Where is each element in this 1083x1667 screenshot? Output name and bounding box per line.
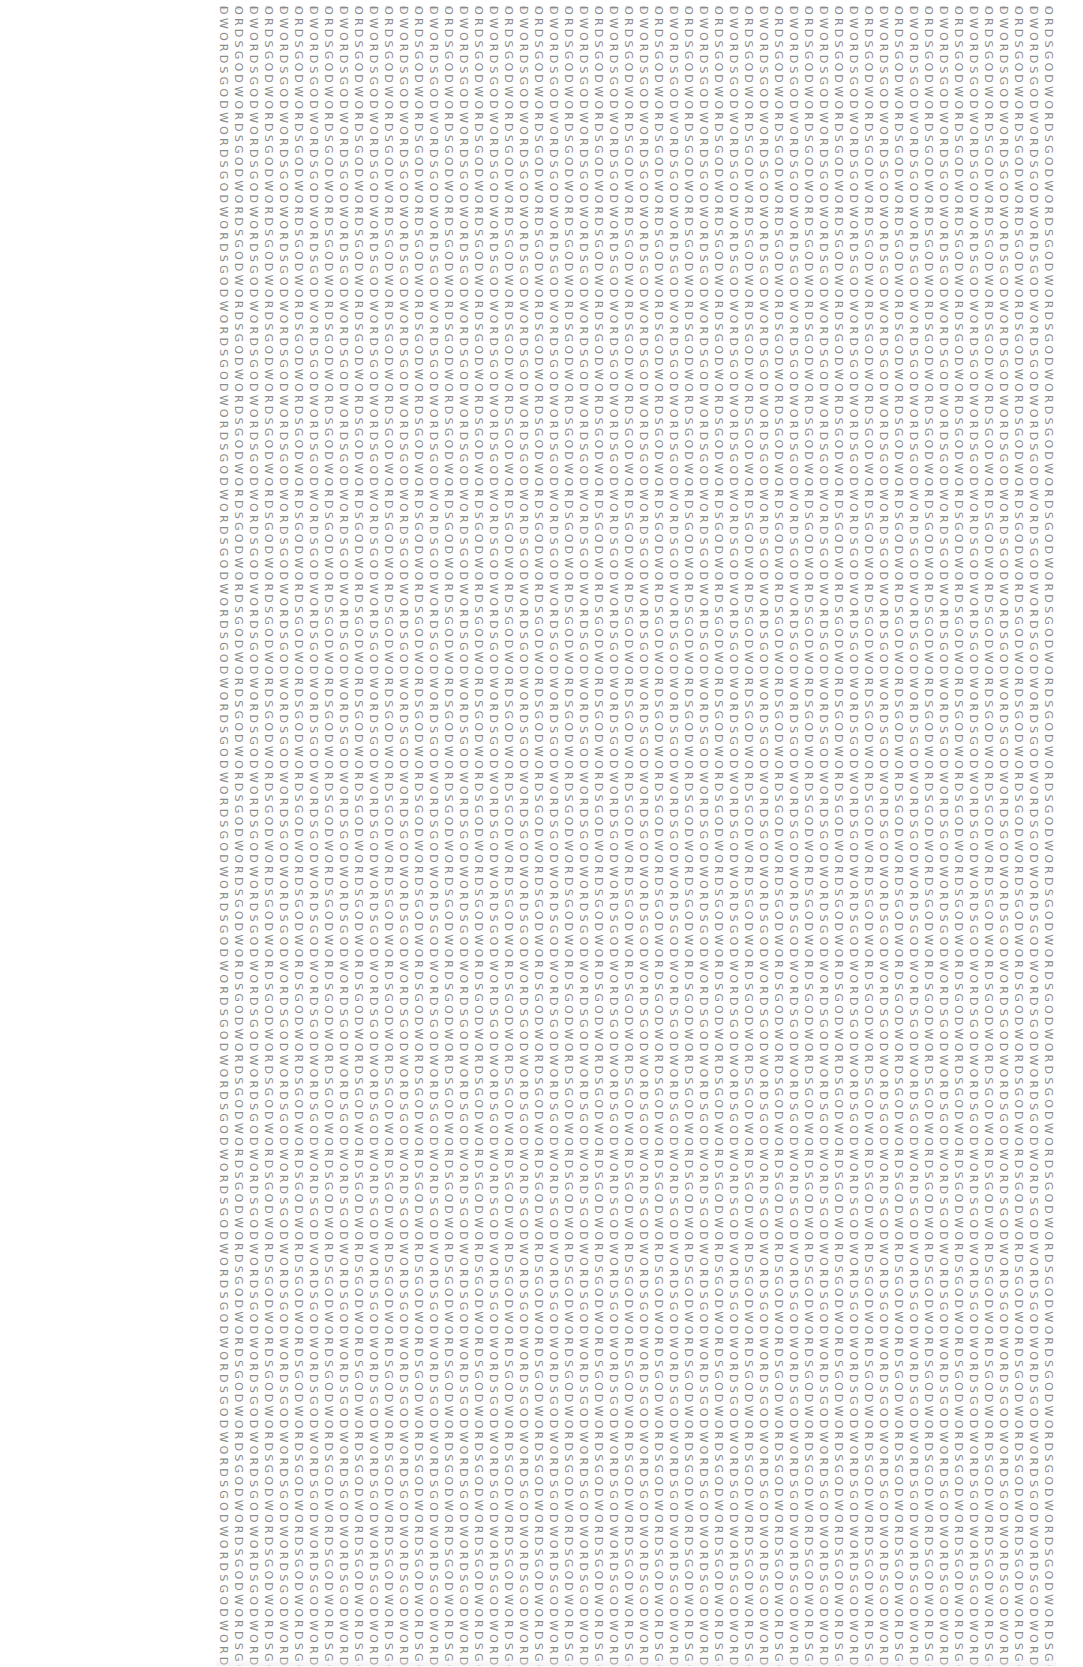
column-bottom-fade <box>846 1658 861 1666</box>
text-column: DWORDSGODWORDSGODWORDSGODWORDSGODWORDSGO… <box>936 6 951 1666</box>
column-text: DWORDSGODWORDSGODWORDSGODWORDSGODWORDSGO… <box>336 6 351 1666</box>
text-column: ORDSGODWORDSGODWORDSGODWORDSGODWORDSGODW… <box>1041 6 1056 1666</box>
column-bottom-fade <box>711 1658 726 1666</box>
text-column: ORDSGODWORDSGODWORDSGODWORDSGODWORDSGODW… <box>711 6 726 1666</box>
column-bottom-fade <box>756 1658 771 1666</box>
column-text: DWORDSGODWORDSGODWORDSGODWORDSGODWORDSGO… <box>216 6 231 1666</box>
column-text: DWORDSGODWORDSGODWORDSGODWORDSGODWORDSGO… <box>756 6 771 1666</box>
column-text: DWORDSGODWORDSGODWORDSGODWORDSGODWORDSGO… <box>426 6 441 1666</box>
column-text: ORDSGODWORDSGODWORDSGODWORDSGODWORDSGODW… <box>351 6 366 1666</box>
column-bottom-fade <box>966 1658 981 1666</box>
column-text: DWORDSGODWORDSGODWORDSGODWORDSGODWORDSGO… <box>606 6 621 1666</box>
column-text: DWORDSGODWORDSGODWORDSGODWORDSGODWORDSGO… <box>876 6 891 1666</box>
text-columns: DWORDSGODWORDSGODWORDSGODWORDSGODWORDSGO… <box>216 0 1061 1667</box>
column-bottom-fade <box>921 1658 936 1666</box>
column-text: ORDSGODWORDSGODWORDSGODWORDSGODWORDSGODW… <box>861 6 876 1666</box>
column-bottom-fade <box>231 1658 246 1666</box>
column-bottom-fade <box>351 1658 366 1666</box>
column-text: DWORDSGODWORDSGODWORDSGODWORDSGODWORDSGO… <box>456 6 471 1666</box>
column-bottom-fade <box>681 1658 696 1666</box>
column-text: DWORDSGODWORDSGODWORDSGODWORDSGODWORDSGO… <box>816 6 831 1666</box>
column-bottom-fade <box>741 1658 756 1666</box>
column-bottom-fade <box>546 1658 561 1666</box>
column-text: ORDSGODWORDSGODWORDSGODWORDSGODWORDSGODW… <box>501 6 516 1666</box>
column-bottom-fade <box>891 1658 906 1666</box>
column-text: ORDSGODWORDSGODWORDSGODWORDSGODWORDSGODW… <box>981 6 996 1666</box>
text-column: ORDSGODWORDSGODWORDSGODWORDSGODWORDSGODW… <box>501 6 516 1666</box>
column-bottom-fade <box>591 1658 606 1666</box>
text-column: ORDSGODWORDSGODWORDSGODWORDSGODWORDSGODW… <box>231 6 246 1666</box>
column-text: ORDSGODWORDSGODWORDSGODWORDSGODWORDSGODW… <box>561 6 576 1666</box>
text-column: DWORDSGODWORDSGODWORDSGODWORDSGODWORDSGO… <box>786 6 801 1666</box>
column-bottom-fade <box>816 1658 831 1666</box>
column-bottom-fade <box>426 1658 441 1666</box>
text-column: DWORDSGODWORDSGODWORDSGODWORDSGODWORDSGO… <box>426 6 441 1666</box>
column-bottom-fade <box>321 1658 336 1666</box>
text-column: DWORDSGODWORDSGODWORDSGODWORDSGODWORDSGO… <box>636 6 651 1666</box>
text-column: ORDSGODWORDSGODWORDSGODWORDSGODWORDSGODW… <box>891 6 906 1666</box>
column-text: DWORDSGODWORDSGODWORDSGODWORDSGODWORDSGO… <box>246 6 261 1666</box>
column-bottom-fade <box>621 1658 636 1666</box>
text-column: DWORDSGODWORDSGODWORDSGODWORDSGODWORDSGO… <box>666 6 681 1666</box>
column-text: ORDSGODWORDSGODWORDSGODWORDSGODWORDSGODW… <box>441 6 456 1666</box>
artwork-canvas: DWORDSGODWORDSGODWORDSGODWORDSGODWORDSGO… <box>0 0 1083 1667</box>
column-bottom-fade <box>1011 1658 1026 1666</box>
text-column: DWORDSGODWORDSGODWORDSGODWORDSGODWORDSGO… <box>486 6 501 1666</box>
text-column: DWORDSGODWORDSGODWORDSGODWORDSGODWORDSGO… <box>906 6 921 1666</box>
column-text: DWORDSGODWORDSGODWORDSGODWORDSGODWORDSGO… <box>696 6 711 1666</box>
column-text: ORDSGODWORDSGODWORDSGODWORDSGODWORDSGODW… <box>381 6 396 1666</box>
column-text: ORDSGODWORDSGODWORDSGODWORDSGODWORDSGODW… <box>831 6 846 1666</box>
text-column: DWORDSGODWORDSGODWORDSGODWORDSGODWORDSGO… <box>216 6 231 1666</box>
column-text: ORDSGODWORDSGODWORDSGODWORDSGODWORDSGODW… <box>771 6 786 1666</box>
column-bottom-fade <box>1026 1658 1041 1666</box>
text-column: ORDSGODWORDSGODWORDSGODWORDSGODWORDSGODW… <box>591 6 606 1666</box>
column-bottom-fade <box>636 1658 651 1666</box>
column-bottom-fade <box>786 1658 801 1666</box>
text-column: ORDSGODWORDSGODWORDSGODWORDSGODWORDSGODW… <box>921 6 936 1666</box>
column-bottom-fade <box>516 1658 531 1666</box>
text-column: DWORDSGODWORDSGODWORDSGODWORDSGODWORDSGO… <box>756 6 771 1666</box>
column-bottom-fade <box>486 1658 501 1666</box>
column-bottom-fade <box>1041 1658 1056 1666</box>
text-column: ORDSGODWORDSGODWORDSGODWORDSGODWORDSGODW… <box>681 6 696 1666</box>
column-text: DWORDSGODWORDSGODWORDSGODWORDSGODWORDSGO… <box>966 6 981 1666</box>
text-column: ORDSGODWORDSGODWORDSGODWORDSGODWORDSGODW… <box>531 6 546 1666</box>
text-column: DWORDSGODWORDSGODWORDSGODWORDSGODWORDSGO… <box>816 6 831 1666</box>
column-text: ORDSGODWORDSGODWORDSGODWORDSGODWORDSGODW… <box>951 6 966 1666</box>
column-text: ORDSGODWORDSGODWORDSGODWORDSGODWORDSGODW… <box>621 6 636 1666</box>
column-text: ORDSGODWORDSGODWORDSGODWORDSGODWORDSGODW… <box>471 6 486 1666</box>
column-text: ORDSGODWORDSGODWORDSGODWORDSGODWORDSGODW… <box>531 6 546 1666</box>
text-column: ORDSGODWORDSGODWORDSGODWORDSGODWORDSGODW… <box>831 6 846 1666</box>
column-text: DWORDSGODWORDSGODWORDSGODWORDSGODWORDSGO… <box>666 6 681 1666</box>
column-bottom-fade <box>606 1658 621 1666</box>
column-text: DWORDSGODWORDSGODWORDSGODWORDSGODWORDSGO… <box>726 6 741 1666</box>
text-column: DWORDSGODWORDSGODWORDSGODWORDSGODWORDSGO… <box>696 6 711 1666</box>
text-column: ORDSGODWORDSGODWORDSGODWORDSGODWORDSGODW… <box>411 6 426 1666</box>
text-column: ORDSGODWORDSGODWORDSGODWORDSGODWORDSGODW… <box>291 6 306 1666</box>
text-column: DWORDSGODWORDSGODWORDSGODWORDSGODWORDSGO… <box>606 6 621 1666</box>
column-text: ORDSGODWORDSGODWORDSGODWORDSGODWORDSGODW… <box>891 6 906 1666</box>
column-text: ORDSGODWORDSGODWORDSGODWORDSGODWORDSGODW… <box>801 6 816 1666</box>
text-column: DWORDSGODWORDSGODWORDSGODWORDSGODWORDSGO… <box>366 6 381 1666</box>
column-bottom-fade <box>216 1658 231 1666</box>
column-text: ORDSGODWORDSGODWORDSGODWORDSGODWORDSGODW… <box>921 6 936 1666</box>
column-text: ORDSGODWORDSGODWORDSGODWORDSGODWORDSGODW… <box>681 6 696 1666</box>
text-column: DWORDSGODWORDSGODWORDSGODWORDSGODWORDSGO… <box>516 6 531 1666</box>
column-bottom-fade <box>411 1658 426 1666</box>
column-bottom-fade <box>531 1658 546 1666</box>
text-column: DWORDSGODWORDSGODWORDSGODWORDSGODWORDSGO… <box>276 6 291 1666</box>
text-column: ORDSGODWORDSGODWORDSGODWORDSGODWORDSGODW… <box>351 6 366 1666</box>
column-bottom-fade <box>561 1658 576 1666</box>
column-bottom-fade <box>996 1658 1011 1666</box>
column-bottom-fade <box>246 1658 261 1666</box>
column-text: ORDSGODWORDSGODWORDSGODWORDSGODWORDSGODW… <box>291 6 306 1666</box>
text-column: ORDSGODWORDSGODWORDSGODWORDSGODWORDSGODW… <box>381 6 396 1666</box>
column-text: ORDSGODWORDSGODWORDSGODWORDSGODWORDSGODW… <box>411 6 426 1666</box>
text-column: ORDSGODWORDSGODWORDSGODWORDSGODWORDSGODW… <box>651 6 666 1666</box>
column-bottom-fade <box>276 1658 291 1666</box>
column-text: DWORDSGODWORDSGODWORDSGODWORDSGODWORDSGO… <box>906 6 921 1666</box>
text-column: ORDSGODWORDSGODWORDSGODWORDSGODWORDSGODW… <box>801 6 816 1666</box>
text-column: ORDSGODWORDSGODWORDSGODWORDSGODWORDSGODW… <box>471 6 486 1666</box>
text-column: DWORDSGODWORDSGODWORDSGODWORDSGODWORDSGO… <box>546 6 561 1666</box>
text-column: DWORDSGODWORDSGODWORDSGODWORDSGODWORDSGO… <box>306 6 321 1666</box>
